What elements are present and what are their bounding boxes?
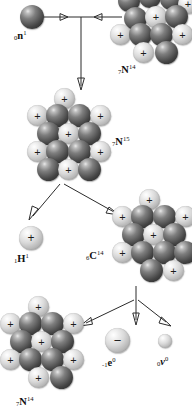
nucleon-n14d-2: [155, 41, 178, 64]
label-neutron-reactant: 0n1: [14, 30, 26, 41]
nucleon-n14c-1: +: [110, 24, 131, 45]
proton-plus-icon: +: [172, 24, 192, 45]
proton-plus-icon: +: [112, 242, 133, 263]
nucleon-n14pe-1: +: [28, 367, 49, 388]
nucleon-c14d-1: +: [112, 242, 133, 263]
label-nitrogen-14-product: 7N14: [16, 396, 33, 407]
nucleon-n15e-2: +: [58, 159, 79, 180]
label-nitrogen-15: 7N15: [112, 136, 129, 147]
proton-plus-icon: +: [19, 226, 43, 250]
neutrino-sphere: [158, 334, 172, 348]
nucleon-c14e-1: [140, 259, 163, 282]
arrow-n15-to-h1: [33, 184, 60, 216]
arrow-c14-to-n14: [86, 300, 134, 323]
proton-plus-icon: +: [110, 24, 131, 45]
electron-minus-icon: −: [105, 328, 130, 353]
nucleon-n14c-4: +: [172, 24, 192, 45]
electron-sphere: −: [105, 328, 130, 353]
nucleon-n15e-3: [78, 158, 101, 181]
arrowhead-h1: [29, 206, 38, 220]
label-electron: -1e0: [102, 357, 115, 368]
nucleon-n14pe-2: [50, 366, 73, 389]
proton-plus-icon: +: [163, 260, 184, 281]
nucleon-n14d-1: +: [133, 42, 154, 63]
arrow-n15-to-c14: [64, 184, 114, 212]
proton-sphere-h1: +: [19, 226, 43, 250]
proton-plus-icon: +: [133, 42, 154, 63]
nuclear-reaction-diagram: 0n1 + + + + + 7N14 + + + + +: [0, 0, 192, 411]
proton-plus-icon: +: [28, 367, 49, 388]
label-nitrogen-14-reactant: 7N14: [118, 64, 135, 75]
label-carbon-14: 6C14: [86, 250, 103, 261]
arrow-c14-to-neutrino: [138, 300, 166, 322]
label-neutrino: 0ν0: [157, 356, 168, 367]
nucleon-n15e-1: [37, 158, 60, 181]
nucleon-n14pd-1: +: [0, 349, 21, 370]
neutron-sphere-reactant: [20, 5, 44, 29]
proton-plus-icon: +: [58, 159, 79, 180]
nucleon-c14e-2: +: [163, 260, 184, 281]
proton-plus-icon: +: [0, 349, 21, 370]
label-hydrogen-1: 1H1: [14, 253, 29, 264]
